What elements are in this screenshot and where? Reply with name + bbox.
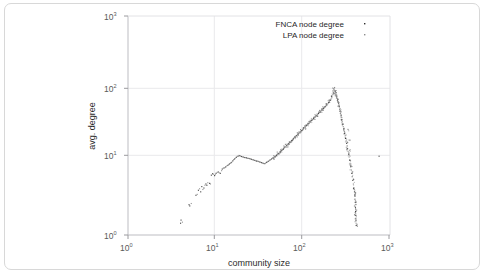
data-point (221, 170, 222, 171)
data-point (206, 185, 207, 186)
data-point (327, 103, 328, 104)
data-point (322, 106, 323, 107)
y-tick-label-10e1: 101 (104, 150, 117, 161)
data-point (218, 171, 219, 172)
data-point (334, 90, 335, 91)
data-point (215, 174, 216, 175)
data-point (301, 132, 302, 133)
data-point (181, 220, 182, 221)
data-point (349, 156, 350, 157)
data-point (245, 157, 246, 158)
data-point (355, 218, 356, 219)
data-point (248, 158, 249, 159)
data-point (340, 109, 341, 110)
data-point (354, 221, 355, 222)
data-point (311, 122, 312, 123)
y-tick-label-10e0: 100 (104, 230, 117, 241)
data-point (247, 158, 248, 159)
data-point (243, 157, 244, 158)
data-point (216, 173, 217, 174)
data-point (225, 167, 226, 168)
data-point (199, 188, 200, 189)
data-point (217, 172, 218, 173)
data-point (274, 157, 275, 158)
legend-marker-lpa (364, 34, 365, 35)
data-point (333, 88, 334, 89)
data-point (350, 149, 351, 150)
data-point (317, 113, 318, 114)
data-point (279, 153, 280, 154)
data-point (315, 114, 316, 115)
data-point (349, 169, 350, 170)
data-point (277, 152, 278, 153)
data-point (331, 95, 332, 96)
data-point (304, 127, 305, 128)
data-point (240, 155, 241, 156)
data-point (355, 209, 356, 210)
data-point (353, 185, 354, 186)
legend-label-fnca: FNCA node degree (276, 20, 345, 29)
data-point (321, 108, 322, 109)
data-point (305, 125, 306, 126)
data-point (341, 119, 342, 120)
data-point (180, 223, 181, 224)
data-point (354, 214, 355, 215)
data-point (332, 93, 333, 94)
x-tick-label-10e3: 103 (381, 242, 394, 253)
data-point (309, 122, 310, 123)
x-tick-label-10e0: 100 (120, 242, 133, 253)
axis-ticks (124, 16, 389, 239)
data-point (292, 139, 293, 140)
legend-swatch (364, 34, 365, 35)
data-point (281, 149, 282, 150)
data-point (351, 165, 352, 166)
data-point (253, 160, 254, 161)
data-point (341, 111, 342, 112)
data-point (341, 115, 342, 116)
data-point (284, 146, 285, 147)
data-point (354, 189, 355, 190)
data-point (346, 149, 347, 150)
data-point (353, 183, 354, 184)
data-point (267, 161, 268, 162)
data-point (202, 189, 203, 190)
legend-label-lpa: LPA node degree (283, 31, 345, 40)
data-point (339, 111, 340, 112)
plot-frame (128, 16, 390, 235)
data-point (275, 155, 276, 156)
data-point (332, 90, 333, 91)
data-point (291, 141, 292, 142)
data-point (348, 152, 349, 153)
data-point (354, 190, 355, 191)
data-point (191, 203, 192, 204)
data-point (260, 162, 261, 163)
data-point (283, 148, 284, 149)
data-point (350, 151, 351, 152)
data-point (353, 188, 354, 189)
data-point (316, 115, 317, 116)
data-point (334, 91, 335, 92)
data-series-layer (180, 87, 380, 227)
data-point (272, 157, 273, 158)
data-point (303, 128, 304, 129)
x-tick-label-10e2: 102 (293, 242, 306, 253)
data-point (312, 119, 313, 120)
data-point (201, 186, 202, 187)
data-point (237, 156, 238, 157)
data-point (340, 116, 341, 117)
data-point (348, 155, 349, 156)
data-point (321, 112, 322, 113)
data-point (339, 106, 340, 107)
data-point (255, 160, 256, 161)
data-point (235, 158, 236, 159)
data-point (242, 156, 243, 157)
data-point (270, 159, 271, 160)
data-point (345, 137, 346, 138)
data-point (355, 220, 356, 221)
data-point (336, 95, 337, 96)
legend-marker-fnca (364, 23, 365, 24)
data-point (250, 158, 251, 159)
data-point (288, 144, 289, 145)
data-point (355, 204, 356, 205)
data-point (355, 207, 356, 208)
